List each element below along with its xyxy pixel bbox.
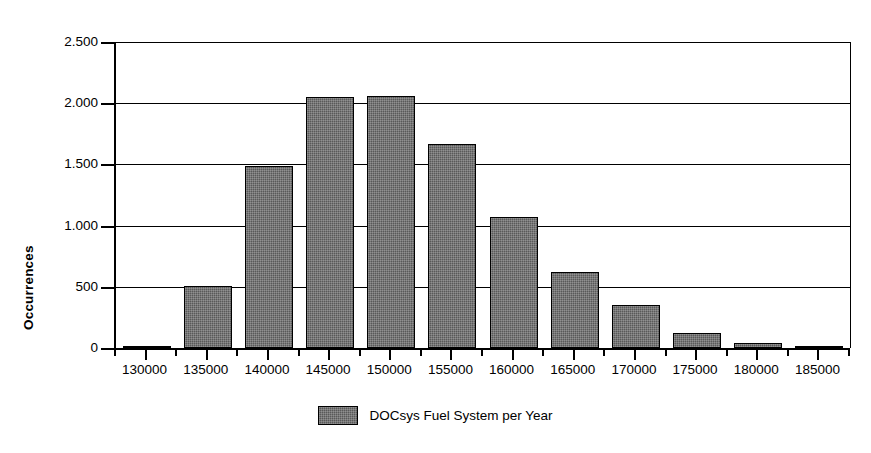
x-tick-mark-edge [359, 348, 361, 356]
x-tick-mark [512, 348, 514, 360]
x-tick-mark [267, 348, 269, 360]
x-tick-mark [389, 348, 391, 360]
x-tick-mark [756, 348, 758, 360]
x-tick-mark-edge [175, 348, 177, 356]
bar [673, 333, 721, 348]
x-tick-mark [695, 348, 697, 360]
bar [184, 286, 232, 348]
x-tick-mark-edge [420, 348, 422, 356]
legend-label: DOCsys Fuel System per Year [369, 408, 552, 424]
x-axis-baseline [116, 348, 850, 350]
x-tick-mark-edge [665, 348, 667, 356]
x-tick-mark [328, 348, 330, 360]
y-tick-mark [101, 287, 114, 289]
x-tick-mark [206, 348, 208, 360]
y-tick-label: 2.000 [18, 96, 98, 110]
x-tick-mark [634, 348, 636, 360]
x-tick-mark-edge [542, 348, 544, 356]
bar [612, 305, 660, 348]
gridline [116, 164, 850, 165]
x-tick-mark-edge [114, 348, 116, 356]
y-tick-mark [101, 226, 114, 228]
x-tick-label: 185000 [777, 362, 857, 378]
bar [306, 97, 354, 348]
x-tick-mark [145, 348, 147, 360]
x-tick-mark-edge [603, 348, 605, 356]
x-tick-mark [450, 348, 452, 360]
x-tick-mark [573, 348, 575, 360]
y-tick-mark [101, 42, 114, 44]
x-tick-mark-edge [848, 348, 850, 356]
y-tick-label: 1.000 [18, 219, 98, 233]
bar [245, 166, 293, 348]
x-tick-mark [817, 348, 819, 360]
gridline [116, 103, 850, 104]
x-tick-mark-edge [236, 348, 238, 356]
bar [551, 272, 599, 348]
y-tick-mark [101, 103, 114, 105]
x-tick-mark-edge [298, 348, 300, 356]
bar [428, 144, 476, 348]
plot-area [114, 42, 851, 348]
y-tick-label: 2.500 [18, 35, 98, 49]
x-tick-mark-edge [787, 348, 789, 356]
y-tick-label: 500 [18, 280, 98, 294]
y-tick-label: 1.500 [18, 157, 98, 171]
y-tick-mark [101, 348, 114, 350]
gridline [116, 42, 850, 43]
bar [367, 96, 415, 348]
bar [490, 217, 538, 348]
gridline [116, 226, 850, 227]
histogram-chart: Occurrences 05001.0001.5002.0002.500 130… [0, 0, 871, 453]
x-tick-mark-edge [481, 348, 483, 356]
y-tick-mark [101, 164, 114, 166]
legend-swatch-docsys [318, 406, 358, 425]
y-tick-label: 0 [18, 341, 98, 355]
x-tick-mark-edge [726, 348, 728, 356]
chart-legend: DOCsys Fuel System per Year [0, 406, 871, 425]
